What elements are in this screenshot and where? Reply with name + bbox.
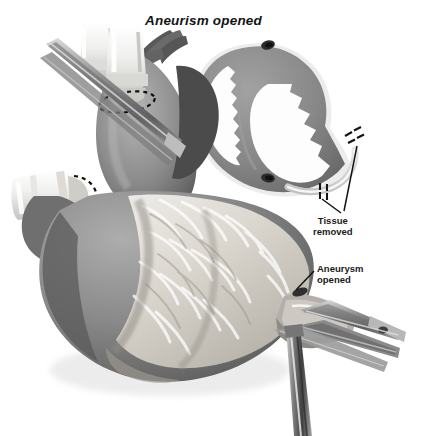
callout-aneurysm-opened-line1: Aneurysm xyxy=(317,263,363,274)
callout-aneurysm-opened: Aneurysm opened xyxy=(317,264,363,285)
callout-tissue-removed: Tissue removed xyxy=(313,216,353,237)
inset-cut-mark-upper xyxy=(345,127,364,143)
callout-tissue-removed-line2: removed xyxy=(313,227,353,238)
figure-title: Aneurism opened xyxy=(145,13,262,28)
callout-aneurysm-opened-line2: opened xyxy=(317,275,363,286)
leader-tissue-left xyxy=(322,199,341,213)
illustration-canvas xyxy=(0,0,444,436)
callout-tissue-removed-line1: Tissue xyxy=(318,215,348,226)
medical-illustration-figure: Aneurism opened Tissue removed Aneurysm … xyxy=(0,0,444,436)
